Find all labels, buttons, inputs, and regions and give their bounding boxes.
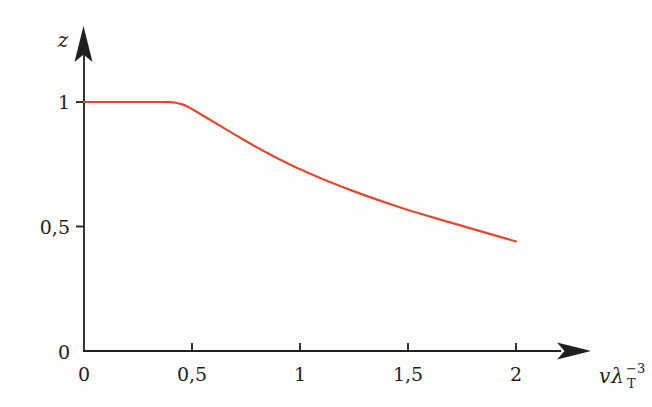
x-tick-label: 1: [294, 363, 306, 385]
x-tick-label: 1,5: [393, 363, 423, 385]
x-ticks-group: 00,511,52: [78, 343, 522, 385]
y-axis-label: z: [57, 28, 69, 52]
x-axis-arrowhead-icon: [557, 343, 591, 360]
x-axis-label-supsub: −3 T: [626, 362, 645, 392]
y-ticks-group: 00,51: [40, 91, 84, 363]
figure-canvas: 00,511,52 00,51 z vλ −3 T: [0, 0, 652, 407]
x-axis-label-superscript: −3: [626, 362, 645, 377]
y-tick-label: 0: [58, 341, 70, 363]
x-tick-label: 0: [78, 363, 90, 385]
x-tick-label: 2: [510, 363, 522, 385]
y-tick-label: 0,5: [40, 216, 70, 238]
x-axis-label: vλ −3 T: [599, 360, 645, 392]
plot-svg: 00,511,52 00,51 z: [0, 0, 652, 407]
y-tick-label: 1: [58, 91, 70, 113]
x-axis-label-subscript: T: [626, 377, 636, 392]
x-axis-label-base: vλ: [599, 364, 625, 388]
fugacity-curve: [84, 102, 516, 241]
x-tick-label: 0,5: [177, 363, 207, 385]
